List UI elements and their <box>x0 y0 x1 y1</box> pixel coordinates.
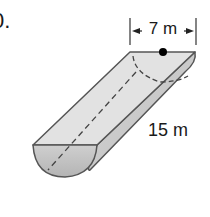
diameter-label: 7 m <box>140 20 186 37</box>
front-semicircle-end <box>33 145 97 177</box>
length-label: 15 m <box>148 121 188 139</box>
center-point <box>159 48 167 56</box>
